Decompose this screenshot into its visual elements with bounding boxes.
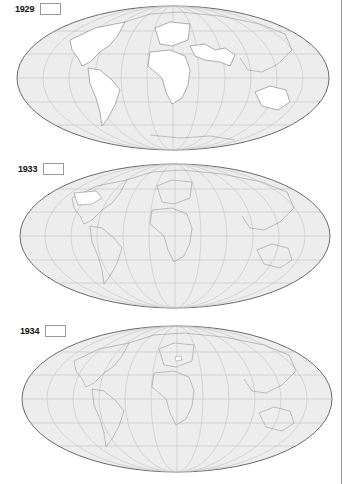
page-edge-line bbox=[341, 0, 342, 484]
legend-1929: 1929 bbox=[15, 3, 61, 15]
world-map-1933 bbox=[0, 158, 340, 316]
legend-1934: 1934 bbox=[20, 325, 66, 337]
legend-swatch bbox=[40, 3, 61, 15]
map-panel-1933: 1933 bbox=[0, 158, 340, 316]
legend-1933: 1933 bbox=[18, 163, 64, 175]
legend-swatch bbox=[45, 325, 66, 337]
map-panel-1934: 1934 bbox=[0, 320, 340, 484]
world-map-1929 bbox=[0, 0, 340, 155]
year-label: 1929 bbox=[15, 4, 34, 14]
map-panel-1929: 1929 bbox=[0, 0, 340, 155]
world-map-1934 bbox=[0, 320, 340, 484]
legend-swatch bbox=[43, 163, 64, 175]
year-label: 1934 bbox=[20, 326, 39, 336]
highlight-poland bbox=[175, 356, 182, 361]
year-label: 1933 bbox=[18, 164, 37, 174]
